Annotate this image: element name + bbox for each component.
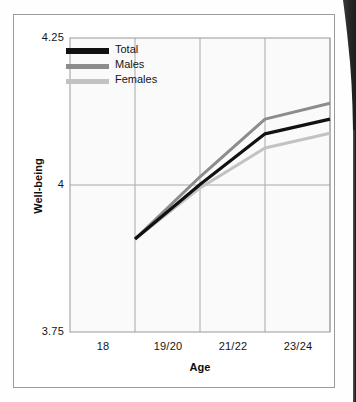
x-tick-label-0: 18 [78, 340, 128, 352]
x-tick-label-2: 21/22 [208, 340, 258, 352]
legend-item-total: Total [66, 44, 172, 59]
legend-label-males: Males [115, 58, 144, 70]
legend-label-total: Total [115, 43, 138, 55]
chart-legend: Total Males Females [66, 44, 172, 90]
x-axis-title: Age [160, 361, 240, 373]
legend-item-males: Males [66, 59, 172, 74]
legend-label-females: Females [115, 73, 157, 85]
y-axis-title: Well-being [32, 141, 44, 231]
legend-swatch-males [66, 64, 109, 69]
y-tick-label-bottom: 3.75 [30, 325, 64, 337]
legend-swatch-total [66, 48, 109, 54]
figure-root: 4.25 4 3.75 Well-being 18 19/20 21/22 23… [0, 0, 356, 402]
legend-swatch-females [66, 79, 109, 84]
x-tick-label-1: 19/20 [143, 340, 193, 352]
x-tick-label-3: 23/24 [273, 340, 323, 352]
y-tick-label-top: 4.25 [30, 31, 64, 43]
legend-item-females: Females [66, 74, 172, 89]
